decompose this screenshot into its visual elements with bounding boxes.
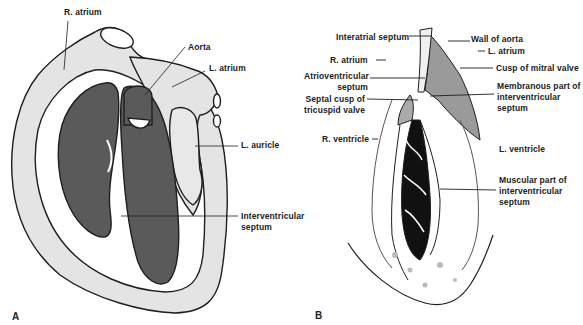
label-membranous-line1: Membranous part of	[497, 81, 581, 91]
label-l-auricle-a: L. auricle	[241, 140, 279, 150]
label-septal-cusp-line2: tricuspid valve	[304, 105, 365, 115]
label-muscular-line1: Muscular part of	[499, 175, 567, 185]
label-r-atrium-b: R. atrium	[330, 55, 368, 65]
label-septal-cusp-line1: Septal cusp of	[304, 94, 365, 104]
panel-letter-a: A	[12, 311, 19, 322]
label-muscular-line3: septum	[499, 197, 530, 207]
label-membranous-line3: septum	[497, 103, 528, 113]
panel-letter-b: B	[315, 310, 322, 321]
label-aorta-a: Aorta	[188, 42, 211, 52]
label-r-atrium-a: R. atrium	[64, 7, 102, 17]
label-interventricular-septum-a-line2: septum	[241, 222, 272, 232]
label-membranous-line2: interventricular	[497, 92, 560, 102]
label-interatrial-septum: Interatrial septum	[336, 32, 409, 42]
label-l-ventricle: L. ventricle	[499, 144, 545, 154]
label-interventricular-septum-a-line1: Interventricular	[241, 211, 304, 221]
label-l-atrium-a: L. atrium	[209, 63, 246, 73]
panel-b-septum-section	[348, 28, 493, 304]
heart-septum-figure: R. atrium Aorta L. atrium L. auricle Int…	[0, 0, 583, 325]
label-l-atrium-b: L. atrium	[488, 46, 525, 56]
label-av-septum-line2: septum	[304, 82, 368, 92]
panel-a-heart-section	[12, 24, 228, 313]
label-av-septum-line1: Atrioventricular	[304, 71, 368, 81]
label-r-ventricle: R. ventricle	[322, 134, 369, 144]
label-muscular-line2: interventricular	[499, 186, 562, 196]
label-cusp-mitral-valve: Cusp of mitral valve	[496, 63, 579, 73]
label-wall-of-aorta: Wall of aorta	[471, 34, 523, 44]
